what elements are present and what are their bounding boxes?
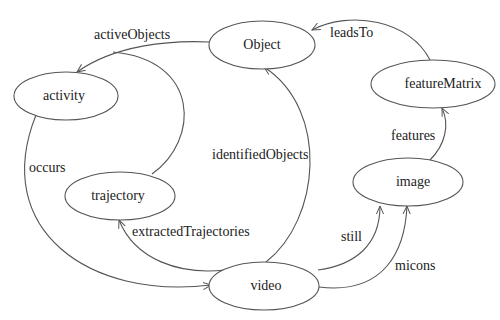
node-trajectory-label: trajectory (91, 188, 145, 203)
node-featurematrix[interactable]: featureMatrix (371, 60, 495, 108)
edge-label-occurs: occurs (29, 160, 66, 175)
node-object[interactable]: Object (209, 21, 315, 69)
edge-label-leadsTo: leadsTo (330, 25, 373, 40)
node-image[interactable]: image (353, 158, 463, 206)
node-activity-label: activity (43, 88, 85, 103)
node-image-label: image (396, 174, 430, 189)
node-featurematrix-label: featureMatrix (405, 76, 482, 91)
node-video-label: video (250, 278, 281, 293)
edge-micons[interactable] (319, 206, 407, 288)
edge-label-features: features (391, 128, 435, 143)
node-video[interactable]: video (209, 262, 319, 310)
edge-identifiedObjects[interactable] (264, 67, 310, 262)
node-trajectory[interactable]: trajectory (65, 172, 175, 220)
edge-activeObjects[interactable] (77, 42, 210, 72)
diagram-canvas: activeObjects leadsTo features occurs id… (0, 0, 500, 320)
node-object-label: Object (243, 37, 280, 52)
edge-label-still: still (341, 229, 362, 244)
node-activity[interactable]: activity (14, 72, 118, 120)
edge-label-micons: micons (395, 258, 435, 273)
edge-label-extractedTrajectories: extractedTrajectories (132, 224, 250, 239)
edge-label-activeObjects: activeObjects (94, 27, 170, 42)
edge-trajectory-activity[interactable] (113, 52, 184, 174)
edge-label-identifiedObjects: identifiedObjects (212, 147, 308, 162)
